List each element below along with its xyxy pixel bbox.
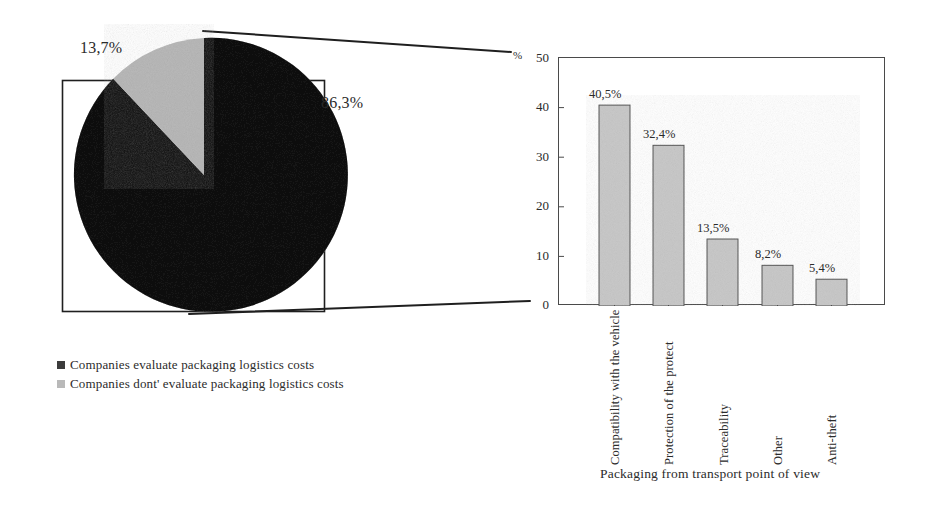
figure-canvas: 86,3% 13,7% Companies evaluate packaging… <box>0 0 936 512</box>
pie-chart-panel: 86,3% 13,7% Companies evaluate packaging… <box>0 0 470 420</box>
x-tick-label-compatibility: Compatibility with the vehicle <box>609 310 622 465</box>
pie-value-label-dont-evaluate: 13,7% <box>80 40 122 56</box>
bar-value-label-traceability: 13,5% <box>697 222 729 235</box>
y-tick-20: 20 <box>515 199 549 212</box>
legend-item-evaluate[interactable]: Companies evaluate packaging logistics c… <box>57 355 417 374</box>
x-tick-label-anti-theft: Anti-theft <box>826 415 839 465</box>
legend-swatch-icon <box>57 380 65 388</box>
y-tick-30: 30 <box>515 150 549 163</box>
y-tick-0: 0 <box>515 298 549 311</box>
bar-value-label-compatibility: 40,5% <box>589 88 621 101</box>
pie-chart-graphic <box>0 0 470 340</box>
bar-other[interactable] <box>762 265 793 306</box>
x-tick-label-traceability: Traceability <box>718 404 731 465</box>
x-tick-label-other: Other <box>772 436 785 465</box>
bar-traceability[interactable] <box>707 239 738 306</box>
y-tick-50: 50 <box>515 51 549 64</box>
y-tick-10: 10 <box>515 249 549 262</box>
bar-chart-panel: % 50 40 30 20 10 0 <box>505 40 936 510</box>
bar-compatibility-with-the-vehicle[interactable] <box>599 105 630 306</box>
x-axis-title: Packaging from transport point of view <box>600 467 820 481</box>
pie-legend: Companies evaluate packaging logistics c… <box>57 355 417 393</box>
legend-label: Companies dont' evaluate packaging logis… <box>70 376 344 392</box>
pie-value-label-evaluate: 86,3% <box>321 95 363 111</box>
x-tick-label-protection: Protection of the protect <box>663 341 676 465</box>
y-tick-40: 40 <box>515 100 549 113</box>
bar-value-label-other: 8,2% <box>755 248 781 261</box>
legend-swatch-icon <box>57 361 65 369</box>
bar-anti-theft[interactable] <box>816 279 847 306</box>
bar-value-label-protection: 32,4% <box>643 128 675 141</box>
legend-item-dont-evaluate[interactable]: Companies dont' evaluate packaging logis… <box>57 374 417 393</box>
legend-label: Companies evaluate packaging logistics c… <box>70 357 314 373</box>
bar-value-label-anti-theft: 5,4% <box>809 262 835 275</box>
bar-protection-of-the-protect[interactable] <box>653 145 684 306</box>
